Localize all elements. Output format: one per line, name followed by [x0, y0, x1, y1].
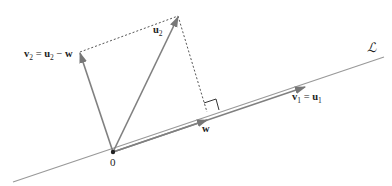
line-label: ℒ [367, 40, 377, 55]
label-u2: u2 [153, 24, 163, 38]
vector-w [113, 120, 207, 152]
origin-point [111, 150, 115, 154]
vector-v2 [80, 53, 113, 152]
vector-u2 [113, 17, 178, 152]
label-w: w [202, 123, 210, 134]
origin-label: 0 [110, 156, 116, 168]
label-v1-equation: v1 = u1 [292, 91, 322, 105]
projection-diagram: 0 ℒ v2 = u2 − w u2 w v1 = u1 [0, 0, 392, 186]
label-v2-equation: v2 = u2 − w [24, 48, 73, 62]
line-L [13, 57, 384, 182]
dashed-perpendicular [178, 16, 207, 112]
